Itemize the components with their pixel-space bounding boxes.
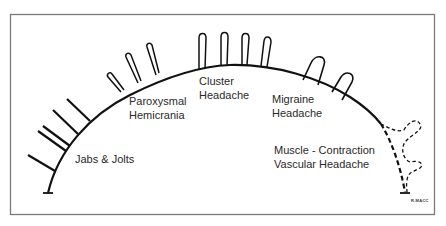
label-jabs-jolts: Jabs & Jolts <box>75 153 135 165</box>
spectrum-arc-dashed <box>381 124 405 192</box>
label-muscle-line1: Muscle - Contraction <box>274 144 375 156</box>
label-migraine-line2: Headache <box>272 107 322 119</box>
label-paroxysmal-line2: Hemicrania <box>129 109 186 121</box>
label-paroxysmal-line1: Paroxysmal <box>129 95 186 107</box>
label-cluster-line2: Headache <box>199 89 249 101</box>
muscle-contraction-dashed-loop <box>381 121 422 192</box>
label-muscle-line2: Vascular Headache <box>274 158 369 170</box>
artist-signature: R.MACC <box>411 198 429 203</box>
headache-spectrum-diagram: Jabs & Jolts Paroxysmal Hemicrania Clust… <box>0 0 446 226</box>
label-migraine-line1: Migraine <box>272 93 314 105</box>
label-cluster-line1: Cluster <box>199 75 234 87</box>
